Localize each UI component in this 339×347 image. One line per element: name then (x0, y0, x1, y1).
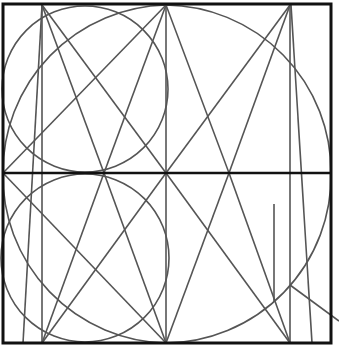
diagram-svg (0, 0, 339, 347)
geometric-diagram (0, 0, 339, 347)
